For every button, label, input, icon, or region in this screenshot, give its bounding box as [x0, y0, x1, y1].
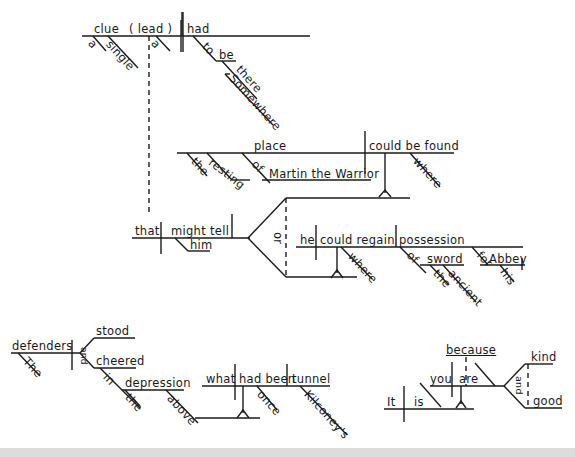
bottom-edge-bar [0, 448, 575, 457]
word-him: him [190, 239, 213, 251]
word-had: had [187, 23, 210, 35]
word-clue: clue [94, 23, 119, 35]
word-martin-the-warrior: Martin the Warrior [269, 168, 379, 180]
word-had-been: had been [239, 373, 295, 385]
word-depression: depression [125, 377, 191, 389]
word-could-regain: could regain [320, 234, 395, 246]
word-what: what [206, 373, 235, 385]
word-tunnel: tunnel [292, 373, 330, 385]
word-might-tell: might tell [171, 225, 229, 237]
word-possession: possession [399, 234, 465, 246]
word-and-2: and [513, 376, 525, 395]
word-sword: sword [427, 253, 463, 265]
sentence-diagram-canvas: clue ( lead ) had a single a to be there… [0, 0, 575, 457]
word-is: is [414, 396, 424, 408]
word-kind: kind [531, 351, 557, 363]
word-could-be-found: could be found [369, 140, 459, 152]
word-abbey: Abbey [489, 253, 527, 265]
word-good: good [533, 395, 563, 407]
word-stood: stood [96, 325, 129, 337]
word-lead-appositive: ( lead ) [129, 23, 172, 35]
word-are: are [459, 373, 479, 385]
word-because: because [446, 344, 496, 356]
word-you: you [430, 373, 452, 385]
word-place: place [254, 140, 286, 152]
word-defenders: defenders [12, 340, 73, 352]
word-it: It [387, 396, 396, 408]
word-cheered: cheered [96, 355, 145, 367]
diagram-lines [0, 0, 575, 457]
word-that: that [135, 225, 160, 237]
word-he: he [300, 234, 315, 246]
word-and-1: and [78, 347, 90, 365]
word-be: be [219, 49, 234, 61]
word-or-1: or [272, 232, 284, 244]
